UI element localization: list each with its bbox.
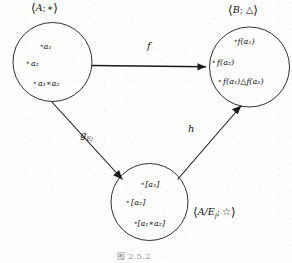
set-label-domain-name: A (36, 2, 43, 13)
node-circle-domain (13, 23, 92, 102)
set-label-quotient-sep: ; (217, 206, 220, 217)
star-operator-icon: ☆ (222, 206, 231, 217)
element-codomain-1-text: f(a₁) (237, 37, 254, 46)
morphism-label-h: h (188, 124, 194, 134)
morphism-label-f-text: f (147, 40, 151, 51)
element-domain-1-text: a₁ (43, 42, 51, 51)
morphism-label-g-subsubscript: f (91, 137, 93, 142)
angle-bracket-close-icon: ⟩ (231, 205, 236, 219)
set-label-quotient: ⟨A/Ef; ☆⟩ (193, 206, 236, 220)
element-quotient-1-text: [a₁] (145, 180, 159, 189)
set-label-codomain: ⟨B; △⟩ (228, 4, 258, 16)
figure-canvas: ⟨A; ∗⟩ ∘a₁ ∘ a₂ ∘ a₁∗a₂ ⟨B; △⟩ ∘f(a₁) ∘ … (0, 0, 292, 263)
element-quotient-1: ∘ [a₁] (141, 181, 159, 189)
element-domain-3-text: a₁∗a₂ (38, 79, 59, 88)
element-quotient-3-text: [a₁∗a₂] (137, 219, 165, 228)
element-quotient-2: ∘ [a₂] (126, 199, 145, 207)
morphism-label-h-text: h (188, 123, 194, 134)
morphism-label-f: f (147, 41, 151, 51)
element-bullet-icon: ∘ (126, 198, 129, 206)
element-domain-1: ∘a₁ (40, 43, 51, 51)
set-label-domain-sep: ; (43, 2, 46, 13)
set-label-codomain-name: B (233, 4, 240, 15)
arrow-f (92, 63, 206, 70)
element-quotient-2-text: [a₂] (131, 198, 145, 207)
element-domain-2-text: a₂ (31, 59, 39, 68)
set-label-quotient-name: A/E (198, 206, 215, 217)
element-bullet-icon: ∘ (212, 58, 215, 66)
morphism-label-g: gEf (80, 130, 93, 143)
element-bullet-icon: ∘ (33, 79, 36, 87)
element-codomain-3-text: f(a₁)△f(a₂) (223, 77, 264, 86)
element-bullet-icon: ∘ (141, 180, 144, 188)
element-domain-2: ∘ a₂ (26, 60, 39, 68)
element-codomain-2-text: f(a₂) (217, 58, 234, 67)
element-codomain-1: ∘f(a₁) (234, 38, 255, 46)
figure-caption: 图 2.5.2 (117, 253, 151, 261)
set-label-codomain-sep: ; (240, 4, 243, 15)
set-label-domain: ⟨A; ∗⟩ (31, 2, 58, 14)
angle-bracket-close-icon: ⟩ (53, 1, 58, 15)
node-circle-quotient (111, 164, 188, 241)
arrow-h (178, 106, 242, 180)
element-bullet-icon: ∘ (26, 59, 29, 67)
element-codomain-3: ∘ f(a₁)△f(a₂) (218, 78, 264, 86)
angle-bracket-close-icon: ⟩ (253, 3, 258, 17)
element-quotient-3: ∘[a₁∗a₂] (134, 220, 165, 228)
element-bullet-icon: ∘ (218, 77, 221, 85)
element-codomain-2: ∘ f(a₂) (212, 59, 234, 67)
element-domain-3: ∘ a₁∗a₂ (33, 80, 59, 88)
